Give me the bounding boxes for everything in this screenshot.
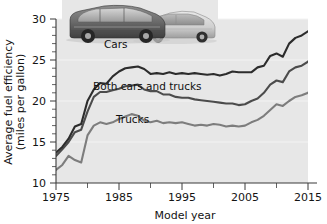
x-tick-label-1995: 1995 xyxy=(168,191,196,204)
series-label-both: Both cars and trucks xyxy=(93,80,202,92)
y-axis-title-line2: (miles per gallon) xyxy=(14,54,27,151)
fuel-efficiency-chart: Cars Both cars and trucks Trucks xyxy=(0,0,327,224)
vehicle-photo xyxy=(62,0,218,44)
x-tick-label-1975: 1975 xyxy=(42,191,70,204)
y-tick-label-10: 10 xyxy=(32,177,46,190)
x-tick-label-2005: 2005 xyxy=(231,191,259,204)
y-tick-label-30: 30 xyxy=(32,13,46,26)
y-axis-title: Average fuel efficiency (miles per gallo… xyxy=(2,39,27,165)
x-axis-title: Model year xyxy=(154,209,216,222)
x-tick-label-1985: 1985 xyxy=(105,191,133,204)
chart-svg: Cars Both cars and trucks Trucks xyxy=(0,0,327,224)
series-label-cars: Cars xyxy=(104,38,128,50)
y-tick-label-20: 20 xyxy=(32,95,46,108)
x-tick-label-2015: 2015 xyxy=(294,191,322,204)
y-tick-label-25: 25 xyxy=(32,54,46,67)
series-label-trucks: Trucks xyxy=(115,113,149,125)
y-tick-label-15: 15 xyxy=(32,136,46,149)
